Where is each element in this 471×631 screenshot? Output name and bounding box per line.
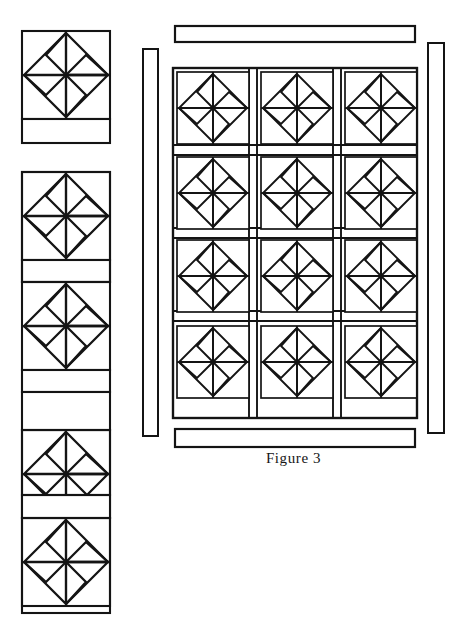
pinwheel-block [261, 240, 333, 312]
pinwheel-block [22, 282, 110, 370]
pinwheel-block [261, 72, 333, 144]
pinwheel-block [22, 31, 110, 119]
pinwheel-block [345, 72, 417, 144]
pinwheel-block [261, 157, 333, 229]
left-narrow-sashing-bar [143, 49, 158, 436]
sashing-strip [22, 370, 110, 392]
quilt-diagram-canvas [0, 0, 471, 631]
sashing-strip [22, 392, 110, 430]
pinwheel-block [177, 157, 249, 229]
left-block-group-1 [22, 31, 110, 143]
pinwheel-block [345, 240, 417, 312]
right-narrow-sashing-bar [428, 43, 444, 433]
pinwheel-block [177, 72, 249, 144]
pinwheel-block [22, 518, 110, 606]
figure-3-illustration: Figure 3 [0, 0, 471, 631]
pinwheel-block [177, 240, 249, 312]
sashing-strip [22, 119, 110, 143]
pinwheel-block [177, 326, 249, 398]
left-vertical-strip [22, 31, 110, 613]
pinwheel-block [22, 172, 110, 260]
pinwheel-block [261, 326, 333, 398]
pinwheel-block [345, 157, 417, 229]
top-horizontal-border-bar [175, 26, 415, 42]
sashing-strip [22, 495, 110, 518]
bottom-horizontal-border-bar [175, 429, 415, 447]
sashing-strip [22, 260, 110, 282]
main-quilt-grid [173, 68, 417, 418]
pinwheel-block [345, 326, 417, 398]
